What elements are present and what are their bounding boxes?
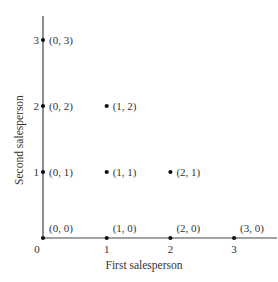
point-marker <box>41 170 45 174</box>
point-label: (3, 0) <box>240 222 264 235</box>
data-point: (1, 1) <box>105 166 137 179</box>
axes <box>42 16 277 239</box>
point-marker <box>105 104 109 108</box>
point-marker <box>41 38 45 42</box>
point-marker <box>41 236 45 240</box>
point-marker <box>105 170 109 174</box>
data-point: (2, 0) <box>168 222 200 240</box>
point-marker <box>232 236 236 240</box>
x-tick-label: 3 <box>231 243 237 255</box>
data-points: (0, 0)(1, 0)(2, 0)(3, 0)(0, 1)(1, 1)(2, … <box>41 34 264 240</box>
data-point: (2, 1) <box>168 166 200 179</box>
y-tick-label: 2 <box>34 100 40 112</box>
point-marker <box>168 170 172 174</box>
data-point: (0, 2) <box>41 100 73 113</box>
point-label: (0, 1) <box>49 166 73 179</box>
x-tick-label: 0 <box>34 243 40 255</box>
data-point: (1, 2) <box>105 100 137 113</box>
sample-space-chart: 0123123 (0, 0)(1, 0)(2, 0)(3, 0)(0, 1)(1… <box>0 0 278 282</box>
x-tick-label: 2 <box>168 243 174 255</box>
point-marker <box>168 236 172 240</box>
point-label: (0, 2) <box>49 100 73 113</box>
point-label: (0, 3) <box>49 34 73 47</box>
data-point: (0, 3) <box>41 34 73 47</box>
point-label: (1, 1) <box>113 166 137 179</box>
point-label: (2, 0) <box>176 222 200 235</box>
y-tick-label: 3 <box>34 34 40 46</box>
y-tick-label: 1 <box>34 166 40 178</box>
point-label: (2, 1) <box>176 166 200 179</box>
point-label: (1, 0) <box>113 222 137 235</box>
point-marker <box>41 104 45 108</box>
y-axis-label: Second salesperson <box>13 95 26 185</box>
data-point: (0, 1) <box>41 166 73 179</box>
data-point: (1, 0) <box>105 222 137 240</box>
x-axis-label: First salesperson <box>106 259 183 272</box>
point-label: (0, 0) <box>49 222 73 235</box>
data-point: (3, 0) <box>232 222 264 240</box>
point-label: (1, 2) <box>113 100 137 113</box>
x-tick-label: 1 <box>104 243 110 255</box>
point-marker <box>105 236 109 240</box>
data-point: (0, 0) <box>41 222 73 240</box>
